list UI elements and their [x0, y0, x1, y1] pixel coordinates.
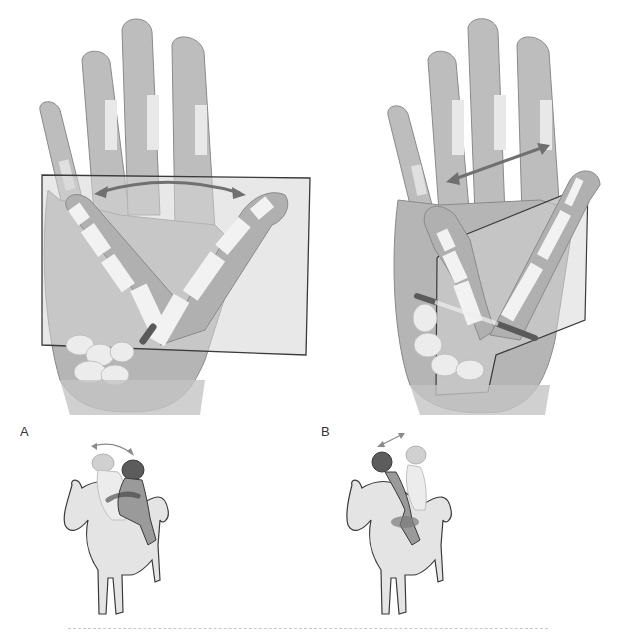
dashed-divider	[68, 628, 548, 629]
panel-b-illustration	[309, 0, 618, 635]
horse-rider-analogy-a	[64, 443, 168, 614]
horse-rider-analogy-b	[347, 433, 452, 614]
panel-label-a: A	[20, 424, 29, 439]
panel-a-illustration	[0, 0, 318, 635]
panel-label-b: B	[321, 424, 330, 439]
panel-a: A	[0, 0, 318, 635]
panel-b: B	[309, 0, 618, 635]
